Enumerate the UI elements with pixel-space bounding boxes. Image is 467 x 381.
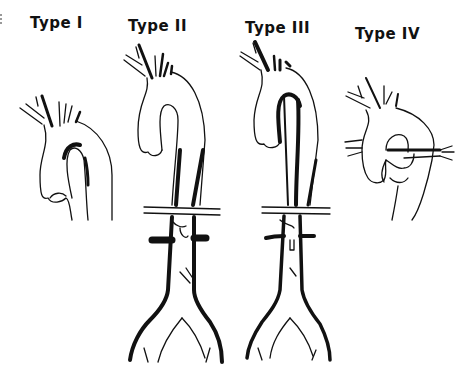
aorta-diagram: [0, 0, 467, 381]
type-1-aorta: [20, 96, 112, 220]
type-4-aorta: [345, 78, 454, 220]
type-2-aorta: [124, 45, 222, 362]
type-3-aorta: [240, 42, 330, 360]
